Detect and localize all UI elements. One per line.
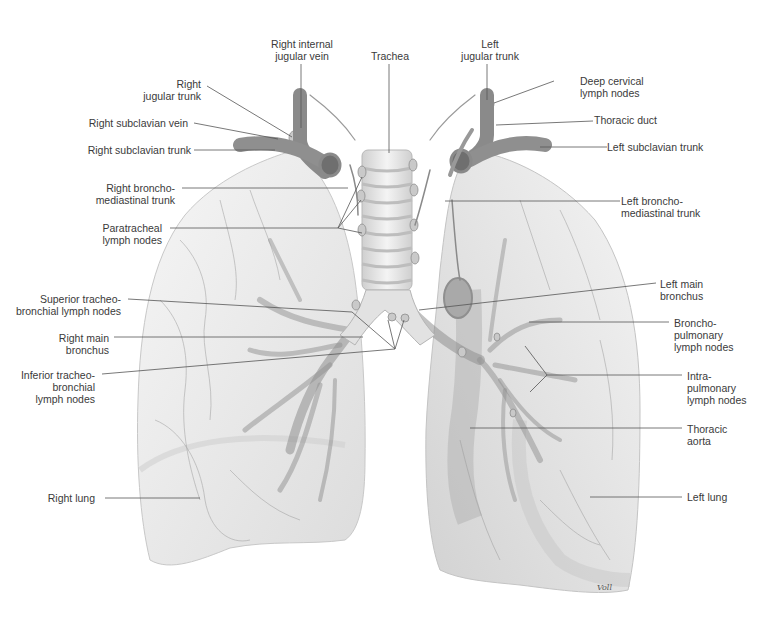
label-thoracic-duct: Thoracic duct: [594, 114, 657, 126]
label-right-subclavian-trunk: Right subclavian trunk: [88, 144, 191, 156]
label-right-jugular-trunk: Right jugular trunk: [143, 78, 201, 102]
label-bronchopulmonary-lymph-nodes: Broncho- pulmonary lymph nodes: [674, 317, 734, 353]
label-left-bronchomediastinal-trunk: Left broncho- mediastinal trunk: [621, 195, 700, 219]
label-superior-tracheobronchial-lymph-nodes: Superior tracheo- bronchial lymph nodes: [16, 293, 121, 317]
label-right-main-bronchus: Right main bronchus: [59, 332, 109, 356]
lung-lymphatics-illustration: [0, 0, 779, 634]
artist-signature: Voll: [597, 583, 612, 592]
label-deep-cervical-lymph-nodes: Deep cervical lymph nodes: [580, 75, 644, 99]
label-right-subclavian-vein: Right subclavian vein: [89, 117, 188, 129]
label-trachea: Trachea: [362, 50, 418, 62]
label-right-internal-jugular-vein: Right internal jugular vein: [262, 38, 342, 62]
label-inferior-tracheobronchial-lymph-nodes: Inferior tracheo- bronchial lymph nodes: [21, 369, 95, 405]
label-left-subclavian-trunk: Left subclavian trunk: [607, 141, 703, 153]
label-left-main-bronchus: Left main bronchus: [660, 278, 703, 302]
label-intrapulmonary-lymph-nodes: Intra- pulmonary lymph nodes: [687, 370, 747, 406]
label-paratracheal-lymph-nodes: Paratracheal lymph nodes: [102, 222, 162, 246]
label-right-bronchomediastinal-trunk: Right broncho- mediastinal trunk: [96, 182, 175, 206]
label-left-lung: Left lung: [687, 491, 727, 503]
label-right-lung: Right lung: [48, 492, 95, 504]
label-left-jugular-trunk: Left jugular trunk: [450, 38, 530, 62]
label-thoracic-aorta: Thoracic aorta: [687, 423, 727, 447]
